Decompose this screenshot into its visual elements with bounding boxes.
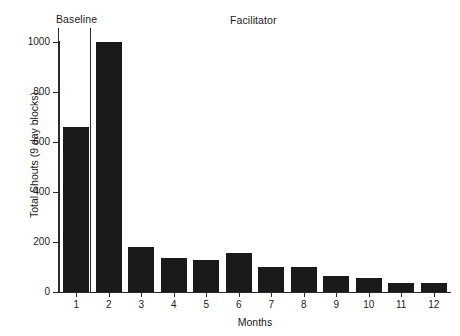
bar xyxy=(323,276,349,292)
x-tick-label: 1 xyxy=(61,299,91,310)
x-tick-label: 12 xyxy=(419,299,449,310)
y-axis-title: Total Shouts (9 day blocks) xyxy=(28,92,40,218)
x-tick-mark xyxy=(109,292,110,297)
x-tick-mark xyxy=(304,292,305,297)
y-tick-label: 0 xyxy=(10,286,50,297)
phase-label-facilitator: Facilitator xyxy=(230,14,277,26)
y-tick-mark xyxy=(53,292,59,293)
x-tick-label: 10 xyxy=(354,299,384,310)
bar xyxy=(161,258,187,292)
x-tick-label: 7 xyxy=(256,299,286,310)
bar xyxy=(356,278,382,292)
x-tick-mark xyxy=(239,292,240,297)
x-tick-label: 8 xyxy=(289,299,319,310)
x-tick-label: 5 xyxy=(191,299,221,310)
chart-figure: Baseline Facilitator Total Shouts (9 day… xyxy=(0,0,460,336)
bar-series xyxy=(60,42,450,292)
y-tick-mark xyxy=(53,92,59,93)
bar xyxy=(226,253,252,292)
x-tick-mark xyxy=(401,292,402,297)
x-tick-label: 6 xyxy=(224,299,254,310)
y-tick-mark xyxy=(53,142,59,143)
bar xyxy=(193,260,219,293)
x-tick-mark xyxy=(434,292,435,297)
x-tick-label: 11 xyxy=(386,299,416,310)
x-tick-mark xyxy=(336,292,337,297)
bar xyxy=(63,127,89,292)
y-tick-mark xyxy=(53,192,59,193)
y-tick-mark xyxy=(53,42,59,43)
x-tick-mark xyxy=(369,292,370,297)
bar xyxy=(96,42,122,292)
bar xyxy=(388,283,414,292)
y-tick-label: 400 xyxy=(10,186,50,197)
x-tick-mark xyxy=(141,292,142,297)
bar xyxy=(291,267,317,292)
bar xyxy=(258,267,284,292)
y-tick-label: 600 xyxy=(10,136,50,147)
y-tick-label: 200 xyxy=(10,236,50,247)
bar xyxy=(128,247,154,292)
x-tick-mark xyxy=(174,292,175,297)
y-tick-label: 800 xyxy=(10,86,50,97)
x-axis-line xyxy=(59,292,451,293)
bar xyxy=(421,283,447,293)
y-tick-label: 1000 xyxy=(10,36,50,47)
x-tick-label: 2 xyxy=(94,299,124,310)
x-tick-mark xyxy=(271,292,272,297)
x-tick-mark xyxy=(76,292,77,297)
x-tick-label: 3 xyxy=(126,299,156,310)
phase-label-baseline: Baseline xyxy=(56,13,97,25)
x-tick-label: 9 xyxy=(321,299,351,310)
x-axis-title-wrapper: Months xyxy=(60,312,450,330)
x-tick-label: 4 xyxy=(159,299,189,310)
x-tick-mark xyxy=(206,292,207,297)
y-tick-mark xyxy=(53,242,59,243)
x-axis-title: Months xyxy=(238,316,272,328)
